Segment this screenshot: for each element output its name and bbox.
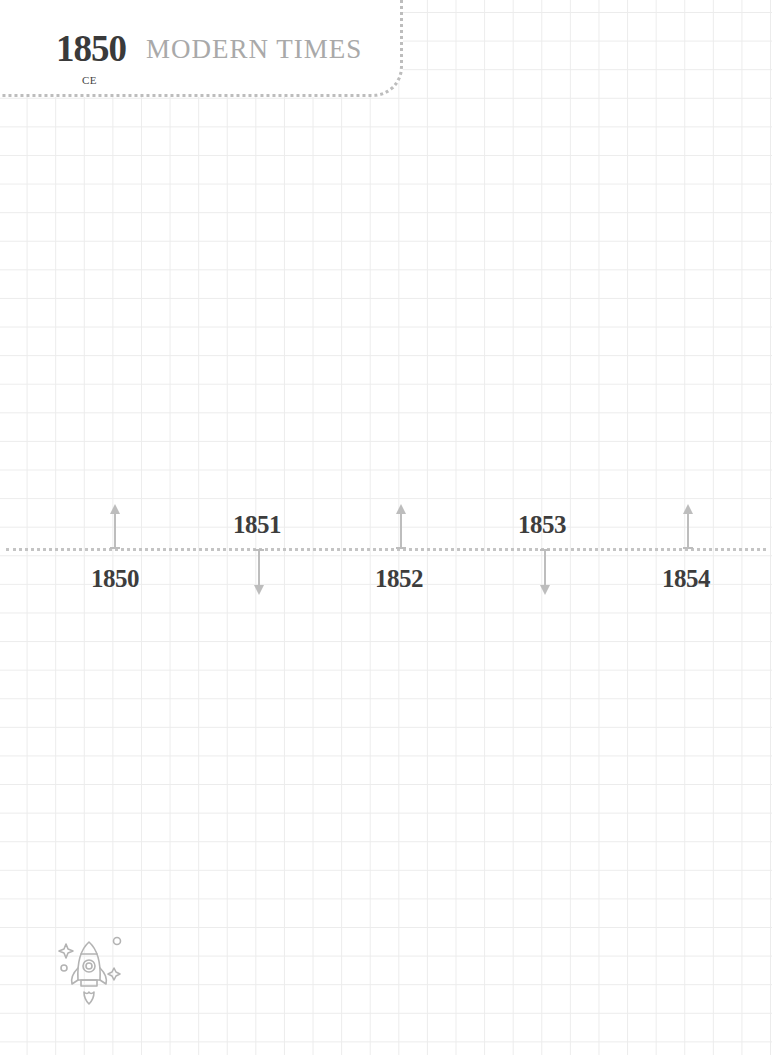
arrow-up-icon [394,504,408,550]
event-year-label: 1854 [646,566,726,591]
event-year-label: 1851 [217,512,297,537]
page-title: MODERN TIMES [146,36,362,63]
page-year: 1850 [56,30,126,67]
arrow-down-icon [252,549,266,595]
event-year-label: 1850 [75,566,155,591]
arrow-up-icon [681,504,695,550]
event-year-label: 1852 [359,566,439,591]
arrow-down-icon [538,549,552,595]
event-year-label: 1853 [502,512,582,537]
era-suffix: CE [82,74,97,86]
arrow-up-icon [108,504,122,550]
rocket-icon [56,934,126,1018]
